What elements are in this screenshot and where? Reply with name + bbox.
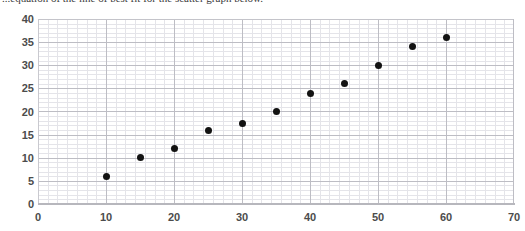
x-tick-label: 20 [154,211,194,223]
y-axis-tick-labels: 0510152025303540 [0,19,34,204]
x-axis-tick-labels: 010203040506070 [0,211,520,227]
y-tick-label: 25 [6,83,34,94]
clipped-question-text: ...equation of the line of best fit for … [0,0,520,6]
plot-right-border [513,19,514,204]
y-tick-label: 10 [6,153,34,164]
y-tick-label: 15 [6,130,34,141]
major-gridlines [38,19,514,204]
x-tick-label: 40 [290,211,330,223]
x-tick-label: 10 [86,211,126,223]
y-tick-label: 40 [6,14,34,25]
scatter-chart: 0510152025303540 010203040506070 [0,8,520,231]
y-tick-label: 5 [6,176,34,187]
y-tick-label: 30 [6,60,34,71]
x-tick-label: 0 [18,211,58,223]
y-axis-line [38,19,39,204]
x-axis-line [38,203,515,205]
y-tick-label: 35 [6,37,34,48]
x-tick-label: 60 [426,211,466,223]
x-tick-label: 30 [222,211,262,223]
plot-top-border [38,19,514,20]
x-tick-label: 50 [358,211,398,223]
clipped-question-line: ...equation of the line of best fit for … [0,0,520,5]
y-tick-label: 0 [6,199,34,210]
y-tick-label: 20 [6,107,34,118]
plot-area [38,19,514,204]
x-tick-label: 70 [494,211,525,223]
